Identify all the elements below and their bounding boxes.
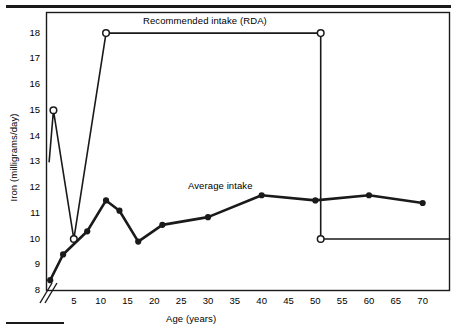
x-axis-title: Age (years): [166, 313, 216, 324]
data-series-layer: [47, 30, 449, 284]
x-tick-45: 45: [279, 295, 299, 306]
y-tick-11: 11: [20, 207, 40, 218]
y-tick-16: 16: [20, 78, 40, 89]
data-point-open: [317, 236, 324, 243]
data-point-filled: [47, 277, 53, 283]
x-tick-55: 55: [332, 295, 352, 306]
chart-plot-area: [0, 0, 457, 333]
data-point-filled: [205, 214, 211, 220]
y-tick-13: 13: [20, 155, 40, 166]
x-tick-70: 70: [413, 295, 433, 306]
x-tick-15: 15: [118, 295, 138, 306]
y-tick-17: 17: [20, 52, 40, 63]
footnote-divider-rule: [6, 322, 64, 324]
x-tick-20: 20: [144, 295, 164, 306]
data-point-open: [317, 30, 324, 37]
x-tick-35: 35: [225, 295, 245, 306]
data-point-filled: [312, 197, 318, 203]
data-point-filled: [159, 222, 165, 228]
data-point-filled: [420, 200, 426, 206]
x-tick-60: 60: [359, 295, 379, 306]
y-tick-10: 10: [20, 233, 40, 244]
plot-border: [47, 13, 450, 291]
series-label-average-intake: Average intake: [188, 180, 253, 191]
y-tick-8: 8: [20, 284, 40, 295]
iron-intake-figure: 89101112131415161718 5101520253035404550…: [0, 0, 457, 333]
x-tick-65: 65: [386, 295, 406, 306]
y-tick-15: 15: [20, 104, 40, 115]
x-tick-50: 50: [305, 295, 325, 306]
y-tick-18: 18: [20, 27, 40, 38]
y-tick-12: 12: [20, 181, 40, 192]
y-tick-9: 9: [20, 258, 40, 269]
x-tick-30: 30: [198, 295, 218, 306]
data-point-filled: [116, 208, 122, 214]
data-point-open: [50, 107, 57, 114]
series-line: [50, 195, 422, 280]
x-tick-25: 25: [171, 295, 191, 306]
data-point-filled: [103, 197, 109, 203]
series-line: [49, 33, 449, 239]
data-point-filled: [259, 192, 265, 198]
data-point-filled: [84, 228, 90, 234]
data-point-filled: [366, 192, 372, 198]
series-label-rda: Recommended intake (RDA): [143, 15, 267, 26]
x-tick-10: 10: [91, 295, 111, 306]
y-axis-title: Iron (milligrams/day): [8, 93, 19, 223]
series-rda: [49, 30, 449, 243]
series-average-intake: [47, 192, 426, 283]
y-tick-14: 14: [20, 130, 40, 141]
x-tick-40: 40: [252, 295, 272, 306]
data-point-filled: [135, 238, 141, 244]
data-point-filled: [60, 251, 66, 257]
x-tick-5: 5: [64, 295, 84, 306]
data-point-open: [103, 30, 110, 37]
axis-break-marks: [40, 283, 57, 303]
